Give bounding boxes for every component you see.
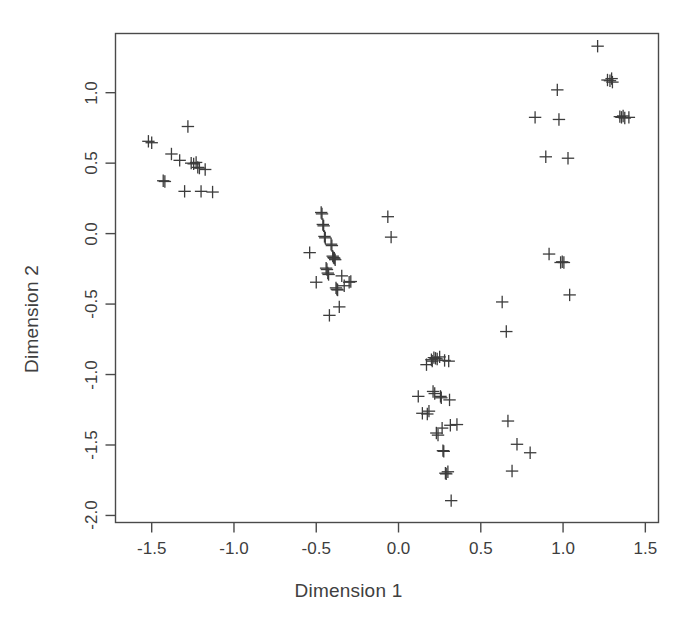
data-point xyxy=(442,466,454,478)
y-tick-label: -1.0 xyxy=(82,360,102,389)
data-point xyxy=(323,309,335,321)
data-point xyxy=(382,210,394,222)
data-point xyxy=(327,251,339,263)
data-point xyxy=(315,206,327,218)
data-point xyxy=(451,418,463,430)
data-point xyxy=(423,405,435,417)
data-point xyxy=(563,289,575,301)
data-point xyxy=(319,232,331,244)
data-point xyxy=(159,175,171,187)
data-point xyxy=(336,270,348,282)
data-point xyxy=(443,394,455,406)
data-point xyxy=(428,351,440,363)
data-point xyxy=(182,120,194,132)
data-point xyxy=(543,248,555,260)
data-point xyxy=(562,152,574,164)
y-tick-label: -2.0 xyxy=(82,501,102,530)
data-point xyxy=(591,40,603,52)
data-point xyxy=(511,438,523,450)
data-point xyxy=(502,415,514,427)
y-axis-title: Dimension 2 xyxy=(12,0,52,638)
y-axis-ticks xyxy=(106,93,116,516)
x-tick-label: 0.0 xyxy=(387,539,411,559)
data-point xyxy=(551,84,563,96)
x-tick-label: 1.0 xyxy=(551,539,575,559)
data-point xyxy=(540,151,552,163)
data-point xyxy=(178,185,190,197)
y-tick-label: 0.0 xyxy=(82,222,102,246)
x-tick-label: 0.5 xyxy=(469,539,493,559)
plot-canvas xyxy=(0,0,697,638)
data-point xyxy=(327,250,339,262)
data-points-layer xyxy=(142,40,635,507)
x-axis-ticks xyxy=(152,523,646,533)
data-point xyxy=(331,283,343,295)
data-point xyxy=(440,468,452,480)
data-point xyxy=(310,276,322,288)
x-tick-label: -0.5 xyxy=(302,539,331,559)
data-point xyxy=(328,252,340,264)
data-point xyxy=(439,467,451,479)
data-point xyxy=(553,113,565,125)
y-tick-label: 0.5 xyxy=(82,151,102,175)
data-point xyxy=(556,256,568,268)
data-point xyxy=(199,163,211,175)
data-point xyxy=(617,110,629,122)
x-tick-label: -1.0 xyxy=(219,539,248,559)
data-point xyxy=(303,246,315,258)
data-point xyxy=(326,239,338,251)
y-tick-label: -0.5 xyxy=(82,289,102,318)
data-point xyxy=(438,445,450,457)
data-point xyxy=(529,111,541,123)
data-point xyxy=(317,220,329,232)
data-point xyxy=(329,253,341,265)
data-point xyxy=(146,137,158,149)
data-point xyxy=(318,230,330,242)
scatter-plot-figure: -1.5-1.0-0.50.00.51.01.5 1.00.50.0-0.5-1… xyxy=(0,0,697,638)
x-axis-title: Dimension 1 xyxy=(0,580,697,602)
data-point xyxy=(330,282,342,294)
data-point xyxy=(506,465,518,477)
data-point xyxy=(437,444,449,456)
data-point xyxy=(445,494,457,506)
data-point xyxy=(496,296,508,308)
data-point xyxy=(325,238,337,250)
data-point xyxy=(524,447,536,459)
data-point xyxy=(317,218,329,230)
y-tick-label: 1.0 xyxy=(82,81,102,105)
data-point xyxy=(206,186,218,198)
x-tick-label: -1.5 xyxy=(137,539,166,559)
data-point xyxy=(333,301,345,313)
data-point xyxy=(142,135,154,147)
data-point xyxy=(385,231,397,243)
data-point xyxy=(316,208,328,220)
data-point xyxy=(444,419,456,431)
data-point xyxy=(157,175,169,187)
y-tick-label: -1.5 xyxy=(82,430,102,459)
data-point xyxy=(558,256,570,268)
data-point xyxy=(195,185,207,197)
x-tick-label: 1.5 xyxy=(634,539,658,559)
data-point xyxy=(412,390,424,402)
data-point xyxy=(173,154,185,166)
data-point xyxy=(165,148,177,160)
plot-frame xyxy=(116,34,659,523)
data-point xyxy=(604,75,616,87)
data-point xyxy=(500,325,512,337)
plot-border xyxy=(116,34,659,523)
